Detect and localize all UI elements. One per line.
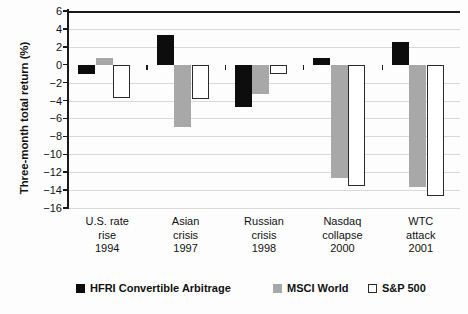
bar-hfri [78,65,95,74]
bar-msci [409,65,426,187]
category-label-line: U.S. rate [68,215,146,229]
x-axis-category: Russiancrisis1998 [225,215,303,256]
legend-label: HFRI Convertible Arbitrage [90,282,231,294]
bar-group [303,11,381,208]
y-axis-tick [63,64,68,65]
bar-sp [192,65,209,99]
legend-swatch-icon [76,284,85,293]
y-axis-tick-label: −6 [22,113,62,123]
bar-sp [270,65,287,74]
y-axis-tick [63,207,68,208]
bar-sp [348,65,365,186]
zero-baseline [68,11,460,13]
bar-msci [96,58,113,64]
y-axis-tick [63,136,68,137]
bar-sp [113,65,130,98]
y-axis-tick [63,10,68,11]
category-label-line: 2000 [303,242,381,256]
y-axis-tick-label: −8 [22,131,62,141]
bar-sp [427,65,444,197]
legend-swatch-icon [273,284,282,293]
y-axis-tick [63,118,68,119]
y-axis-tick-label: 2 [22,42,62,52]
category-label-line: crisis [225,229,303,243]
x-axis-tick [303,65,304,70]
y-axis-tick [63,46,68,47]
bar-group [382,11,460,208]
y-axis-tick-label: 0 [22,60,62,70]
legend-label: S&P 500 [382,282,426,294]
category-label-line: 1998 [225,242,303,256]
y-axis-tick [63,100,68,101]
bar-hfri [157,35,174,65]
legend-item[interactable]: HFRI Convertible Arbitrage [76,280,231,296]
y-axis-tick [63,154,68,155]
category-label-line: rise [68,229,146,243]
y-axis-tick-label: −2 [22,78,62,88]
legend-item[interactable]: S&P 500 [368,280,426,296]
chart-legend: HFRI Convertible ArbitrageMSCI WorldS&P … [68,280,460,298]
bar-msci [252,65,269,95]
x-axis-category: WTCattack2001 [382,215,460,256]
category-label-line: WTC [382,215,460,229]
bar-hfri [313,58,330,65]
y-axis-line [67,9,69,209]
bar-msci [174,65,191,127]
category-label-line: crisis [146,229,224,243]
category-label-line: Nasdaq [303,215,381,229]
x-axis-tick [146,65,147,70]
x-axis-category: Nasdaqcollapse2000 [303,215,381,256]
gridline [68,208,460,209]
bar-hfri [235,65,252,107]
category-label-line: collapse [303,229,381,243]
category-label-line: 1994 [68,242,146,256]
y-axis-tick-labels: 6420−2−4−6−8−10−12−14−16 [18,11,62,208]
bar-msci [331,65,348,178]
category-label-line: attack [382,229,460,243]
y-axis-tick [63,189,68,190]
y-axis-tick [63,28,68,29]
x-axis-tick [382,65,383,70]
y-axis-tick-label: −12 [22,167,62,177]
y-axis-tick-label: −4 [22,96,62,106]
x-axis-category: Asiancrisis1997 [146,215,224,256]
category-label-line: Asian [146,215,224,229]
y-axis-tick [63,82,68,83]
category-label-line: Russian [225,215,303,229]
y-axis-tick-label: −14 [22,185,62,195]
bar-group [146,11,224,208]
y-axis-tick-label: −16 [22,203,62,213]
y-axis-tick [63,171,68,172]
legend-swatch-icon [368,284,377,293]
bar-group [68,11,146,208]
category-label-line: 1997 [146,242,224,256]
category-label-line: 2001 [382,242,460,256]
y-axis-tick-label: 6 [22,6,62,16]
chart-figure: Three-month total return (%) 6420−2−4−6−… [0,0,468,314]
x-axis-category-labels: U.S. raterise1994Asiancrisis1997Russianc… [68,215,460,261]
bar-hfri [392,42,409,64]
legend-label: MSCI World [287,282,349,294]
x-axis-tick [225,65,226,70]
legend-item[interactable]: MSCI World [273,280,349,296]
plot-area [68,11,460,208]
y-axis-tick-label: −10 [22,149,62,159]
bar-group [225,11,303,208]
y-axis-tick-label: 4 [22,24,62,34]
x-axis-category: U.S. raterise1994 [68,215,146,256]
